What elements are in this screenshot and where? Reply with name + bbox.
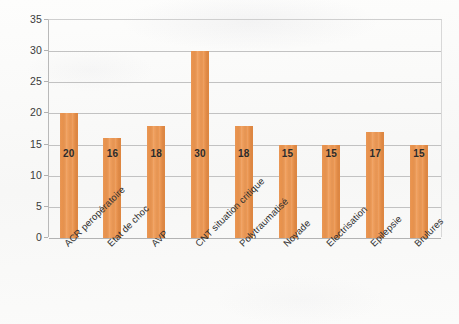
bar bbox=[191, 51, 209, 238]
bar-value-label: 18 bbox=[230, 148, 258, 159]
y-axis-tick-label-5: 5 bbox=[2, 200, 42, 212]
bar bbox=[147, 126, 165, 238]
bar-value-label: 30 bbox=[186, 148, 214, 159]
bar-value-label: 18 bbox=[142, 148, 170, 159]
y-axis-tick-mark-0 bbox=[44, 237, 48, 238]
y-axis-tick-mark-30 bbox=[44, 50, 48, 51]
bar-value-label: 15 bbox=[317, 148, 345, 159]
bar-value-label: 20 bbox=[55, 148, 83, 159]
gridline-20 bbox=[49, 113, 441, 114]
y-axis-tick-label-35: 35 bbox=[2, 13, 42, 25]
y-axis-tick-mark-10 bbox=[44, 175, 48, 176]
y-axis-tick-mark-20 bbox=[44, 112, 48, 113]
y-axis-tick-label-0: 0 bbox=[2, 231, 42, 243]
bar-value-label: 17 bbox=[361, 148, 389, 159]
y-axis-tick-label-25: 25 bbox=[2, 75, 42, 87]
gridline-25 bbox=[49, 82, 441, 83]
y-axis-tick-label-20: 20 bbox=[2, 106, 42, 118]
bar-value-label: 15 bbox=[405, 148, 433, 159]
y-axis-tick-label-30: 30 bbox=[2, 44, 42, 56]
bar-value-label: 16 bbox=[98, 148, 126, 159]
y-axis-tick-mark-35 bbox=[44, 19, 48, 20]
gridline-30 bbox=[49, 51, 441, 52]
bar-value-label: 15 bbox=[274, 148, 302, 159]
y-axis-tick-mark-5 bbox=[44, 206, 48, 207]
y-axis-tick-label-10: 10 bbox=[2, 169, 42, 181]
bar-chart: 201618301815151715 05101520253035 ACR pe… bbox=[0, 0, 459, 324]
y-axis-tick-mark-15 bbox=[44, 144, 48, 145]
bar bbox=[60, 113, 78, 238]
y-axis-tick-label-15: 15 bbox=[2, 138, 42, 150]
y-axis-tick-mark-25 bbox=[44, 81, 48, 82]
